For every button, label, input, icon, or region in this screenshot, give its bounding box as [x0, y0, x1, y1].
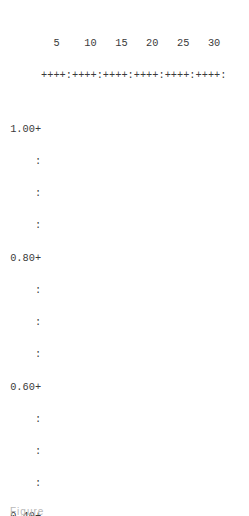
- figure-caption-cutoff: Figure: [10, 506, 44, 516]
- top-x-axis: ++++:++++:++++:++++:++++:++++:: [4, 70, 233, 81]
- row: :: [4, 478, 233, 489]
- plot-body: 1.00+ : : : 0.80+ : : : 0.60+ : : : 0.40…: [4, 102, 233, 516]
- row: :: [4, 156, 233, 167]
- top-x-tick-labels: 5 10 15 20 25 30: [4, 38, 233, 49]
- row: :: [4, 349, 233, 360]
- row: :: [4, 446, 233, 457]
- row-0-60: 0.60+: [4, 382, 233, 393]
- row: :: [4, 317, 233, 328]
- row: :: [4, 188, 233, 199]
- row-1-00: 1.00+: [4, 124, 233, 135]
- row: :: [4, 220, 233, 231]
- row-0-80: 0.80+: [4, 253, 233, 264]
- acf-text-plot: 5 10 15 20 25 30 ++++:++++:++++:++++:+++…: [4, 16, 233, 516]
- row: :: [4, 414, 233, 425]
- row: :: [4, 285, 233, 296]
